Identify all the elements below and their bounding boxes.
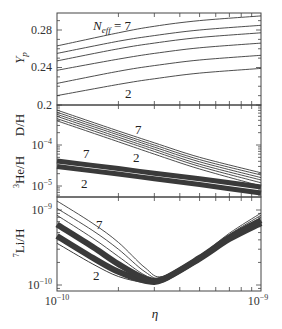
tick-label-0.2: 0.2 <box>37 98 52 112</box>
annotation-he-7: 7 <box>83 146 90 161</box>
annotation-li-7: 7 <box>96 217 103 232</box>
x-tick-label-1e-10: 10−10 <box>45 293 70 308</box>
y-tick-labels: 0.28 0.24 0.2 10−4 10−5 10−9 10−10 <box>27 23 52 292</box>
curve-top-n-eff-3 <box>57 55 261 83</box>
x-axis-title-eta: η <box>152 306 158 321</box>
curve-bottom-n-eff-4 <box>57 220 261 281</box>
panel-yp-frame <box>57 13 261 105</box>
tick-label-1e-10: 10−10 <box>27 277 52 292</box>
curve-top-n-eff-7 <box>57 16 261 46</box>
annotation-dh-2: 2 <box>133 150 140 165</box>
annotation-he-2: 2 <box>81 176 88 191</box>
annotation-neff-7: Neff = 7 <box>92 18 132 35</box>
tick-label-1e-5: 10−5 <box>31 178 52 193</box>
annotation-li-2: 2 <box>93 268 100 283</box>
y-axis-title-yp: Yp <box>12 52 29 64</box>
x-tick-label-1e-9: 10−9 <box>248 293 269 308</box>
tick-label-0.24: 0.24 <box>31 60 52 74</box>
y-axis-title-he3: 3He/H <box>12 156 27 188</box>
tick-label-1e-9: 10−9 <box>31 202 52 217</box>
tick-label-0.28: 0.28 <box>31 23 52 37</box>
curve-top-n-eff-2 <box>57 68 261 95</box>
curve-bottom-n-eff-5 <box>57 215 261 280</box>
y-axis-title-dh: D/H <box>12 114 27 136</box>
annotation-yp-2: 2 <box>125 86 132 101</box>
annotation-dh-7: 7 <box>135 122 142 137</box>
tick-label-1e-4: 10−4 <box>31 137 52 152</box>
curve-bottom-n-eff-3 <box>57 223 261 282</box>
y-axis-title-li7: 7Li/H <box>12 229 27 258</box>
bbn-abundance-chart: 0.28 0.24 0.2 10−4 10−5 10−9 10−10 10−10… <box>0 0 282 329</box>
